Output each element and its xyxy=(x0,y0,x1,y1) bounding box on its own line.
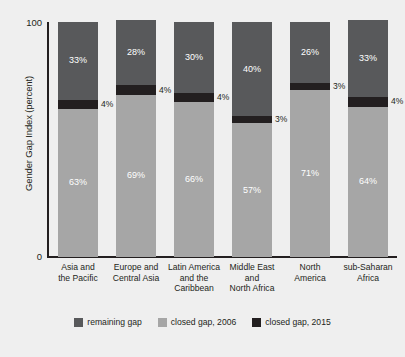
bar-group: 64%4%33% xyxy=(348,22,388,257)
bar-segment xyxy=(348,20,388,98)
x-category-label: sub-SaharanAfrica xyxy=(339,262,397,283)
chart-figure: Gender Gap Index (percent) 100 0 63%4%33… xyxy=(0,0,405,357)
bar-group: 66%4%30% xyxy=(174,22,214,257)
legend-label: closed gap, 2015 xyxy=(265,318,330,327)
y-tick-100: 100 xyxy=(26,18,42,28)
bar-value-label-outside: 4% xyxy=(159,86,171,95)
legend-item[interactable]: closed gap, 2006 xyxy=(158,318,236,327)
bar-segment xyxy=(290,22,330,83)
bar-segment xyxy=(232,123,272,257)
x-category-label: NorthAmerica xyxy=(281,262,339,283)
x-category-label: Latin Americaand theCaribbean xyxy=(165,262,223,294)
bar-segment xyxy=(116,20,156,86)
bar-series-container: 63%4%33%69%4%28%66%4%30%57%3%40%71%3%26%… xyxy=(49,22,397,257)
bar-segment xyxy=(290,90,330,257)
y-tick-0: 0 xyxy=(37,252,42,262)
legend-label: remaining gap xyxy=(87,318,141,327)
bar-group: 69%4%28% xyxy=(116,22,156,257)
bar-segment xyxy=(174,22,214,93)
stacked-bar: 57%3%40% xyxy=(232,22,272,257)
bar-segment xyxy=(116,85,156,94)
bar-value-label-outside: 3% xyxy=(333,82,345,91)
bar-value-label-outside: 4% xyxy=(217,93,229,102)
legend-item[interactable]: remaining gap xyxy=(74,318,141,327)
stacked-bar: 63%4%33% xyxy=(58,22,98,257)
x-category-label: Europe andCentral Asia xyxy=(107,262,165,283)
x-category-label: Asia andthe Pacific xyxy=(49,262,107,283)
stacked-bar: 69%4%28% xyxy=(116,22,156,257)
legend-swatch-icon xyxy=(158,318,167,327)
bar-segment xyxy=(290,83,330,90)
bar-segment xyxy=(58,100,98,109)
bar-segment xyxy=(232,116,272,123)
bar-group: 71%3%26% xyxy=(290,22,330,257)
x-axis-category-labels: Asia andthe PacificEurope andCentral Asi… xyxy=(49,262,397,306)
chart-legend: remaining gapclosed gap, 2006closed gap,… xyxy=(0,318,405,327)
stacked-bar: 71%3%26% xyxy=(290,22,330,257)
bar-segment xyxy=(232,22,272,116)
bar-value-label-outside: 4% xyxy=(391,97,403,106)
stacked-bar: 64%4%33% xyxy=(348,22,388,257)
bar-segment xyxy=(58,22,98,100)
bar-value-label-outside: 4% xyxy=(101,100,113,109)
plot-area: 100 0 63%4%33%69%4%28%66%4%30%57%3%40%71… xyxy=(47,22,397,257)
legend-label: closed gap, 2006 xyxy=(171,318,236,327)
bar-segment xyxy=(116,95,156,257)
bar-segment xyxy=(174,102,214,257)
bar-group: 57%3%40% xyxy=(232,22,272,257)
stacked-bar: 66%4%30% xyxy=(174,22,214,257)
legend-swatch-icon xyxy=(74,318,83,327)
legend-swatch-icon xyxy=(252,318,261,327)
bar-segment xyxy=(348,107,388,257)
bar-segment xyxy=(348,97,388,106)
bar-group: 63%4%33% xyxy=(58,22,98,257)
legend-item[interactable]: closed gap, 2015 xyxy=(252,318,330,327)
x-category-label: Middle EastandNorth Africa xyxy=(223,262,281,294)
bar-segment xyxy=(174,93,214,102)
y-axis-label: Gender Gap Index (percent) xyxy=(23,44,34,224)
bar-value-label-outside: 3% xyxy=(275,115,287,124)
bar-segment xyxy=(58,109,98,257)
